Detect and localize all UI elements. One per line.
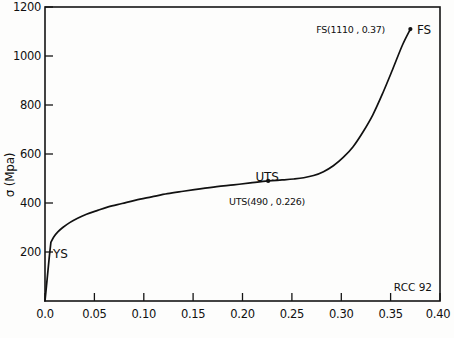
figure-caption	[0, 329, 454, 338]
y-tick-label-1200: 1200	[13, 0, 41, 14]
x-tick-label-0.10: 0.10	[132, 307, 156, 321]
x-axis-tick-labels: 0.0 0.05 0.10 0.15 0.20 0.25 0.30 0.35 0…	[36, 307, 450, 321]
x-tick-label-0.35: 0.35	[378, 307, 402, 321]
x-tick-label-0.40: 0.40	[426, 307, 450, 321]
fs-annotation-label: FS	[417, 23, 431, 37]
y-axis-title: σ (Mpa)	[3, 153, 17, 198]
fs-value-annotation: FS(1110 , 0.37)	[316, 24, 385, 35]
fs-marker-dot	[408, 27, 412, 31]
uts-value-annotation: UTS(490 , 0.226)	[229, 196, 305, 207]
y-tick-label-800: 800	[20, 98, 41, 112]
y-axis-tick-labels: 1200 1000 800 600 400 200	[13, 0, 41, 259]
plot-frame	[45, 7, 440, 301]
figure-stamp-label: RCC 92	[394, 281, 432, 293]
uts-annotation-label: UTS	[255, 170, 278, 184]
y-tick-label-400: 400	[20, 196, 41, 210]
y-axis-ticks	[45, 7, 53, 252]
y-tick-label-200: 200	[20, 245, 41, 259]
x-axis-ticks	[45, 293, 440, 301]
x-tick-label-0.20: 0.20	[230, 307, 254, 321]
stress-strain-chart: 1200 1000 800 600 400 200 σ (Mpa) 0.0 0.…	[0, 0, 454, 338]
x-tick-label-0.00: 0.0	[36, 307, 53, 321]
stress-strain-curve	[45, 29, 410, 301]
x-tick-label-0.25: 0.25	[280, 307, 304, 321]
x-tick-label-0.15: 0.15	[181, 307, 205, 321]
figure-container: 1200 1000 800 600 400 200 σ (Mpa) 0.0 0.…	[0, 0, 454, 338]
x-tick-label-0.30: 0.30	[329, 307, 353, 321]
x-tick-label-0.05: 0.05	[82, 307, 106, 321]
ys-annotation-label: YS	[52, 247, 68, 261]
y-tick-label-600: 600	[20, 147, 41, 161]
y-tick-label-1000: 1000	[13, 49, 41, 63]
